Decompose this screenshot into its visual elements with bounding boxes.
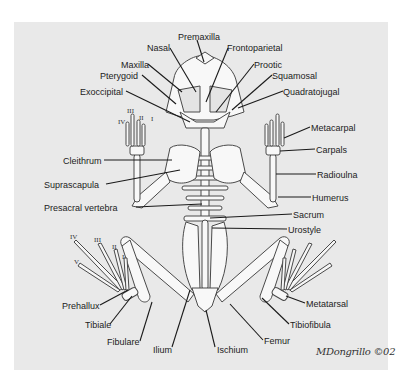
- label-cleithrum: Cleithrum: [63, 156, 102, 166]
- hand-digit-label: I: [151, 115, 153, 123]
- foot-digit-label: II: [112, 243, 117, 251]
- label-radioulna: Radioulna: [317, 170, 358, 180]
- label-metacarpal: Metacarpal: [311, 123, 356, 133]
- label-nasal: Nasal: [147, 43, 170, 53]
- radioulna-right: [270, 154, 276, 202]
- foot-digit-label: I: [122, 253, 124, 261]
- urostyle: [202, 220, 208, 290]
- carpals-left: [130, 146, 144, 155]
- label-ischium: Ischium: [217, 345, 248, 355]
- label-femur: Femur: [264, 336, 290, 346]
- suprascapula-left: [164, 145, 200, 183]
- label-prootic: Prootic: [254, 60, 282, 70]
- label-carpals: Carpals: [316, 145, 347, 155]
- hand-digit-label: III: [127, 107, 134, 115]
- label-quadratojugal: Quadratojugal: [283, 87, 340, 97]
- label-exoccipital: Exoccipital: [80, 87, 123, 97]
- label-fibulare: Fibulare: [107, 337, 140, 347]
- label-presacral-vertebra: Presacral vertebra: [44, 203, 118, 213]
- foot-digit-label: III: [94, 236, 101, 244]
- label-urostyle: Urostyle: [288, 225, 321, 235]
- label-tibiale: Tibiale: [85, 320, 111, 330]
- foot-digit-label: V: [74, 258, 79, 266]
- ischium: [192, 288, 218, 312]
- label-pterygoid: Pterygoid: [100, 71, 138, 81]
- ilium-left: [183, 222, 200, 290]
- label-ilium: Ilium: [153, 345, 172, 355]
- label-sacrum: Sacrum: [293, 210, 324, 220]
- label-suprascapula: Suprascapula: [44, 180, 99, 190]
- hand-digit-label: II: [139, 114, 144, 122]
- carpals-right: [266, 146, 280, 155]
- hand-digit-label: IV: [118, 118, 125, 126]
- label-humerus: Humerus: [312, 193, 349, 203]
- label-squamosal: Squamosal: [272, 71, 317, 81]
- suprascapula-right: [210, 145, 246, 183]
- label-maxilla: Maxilla: [121, 60, 149, 70]
- label-prehallux: Prehallux: [62, 301, 100, 311]
- label-frontoparietal: Frontoparietal: [227, 43, 283, 53]
- ilium-right: [210, 222, 227, 290]
- foot-digit-label: IV: [70, 233, 77, 241]
- label-tibiofibula: Tibiofibula: [290, 320, 331, 330]
- label-metatarsal: Metatarsal: [306, 299, 348, 309]
- artist-signature: MDongrillo ©02: [316, 346, 395, 357]
- label-premaxilla: Premaxilla: [178, 32, 220, 42]
